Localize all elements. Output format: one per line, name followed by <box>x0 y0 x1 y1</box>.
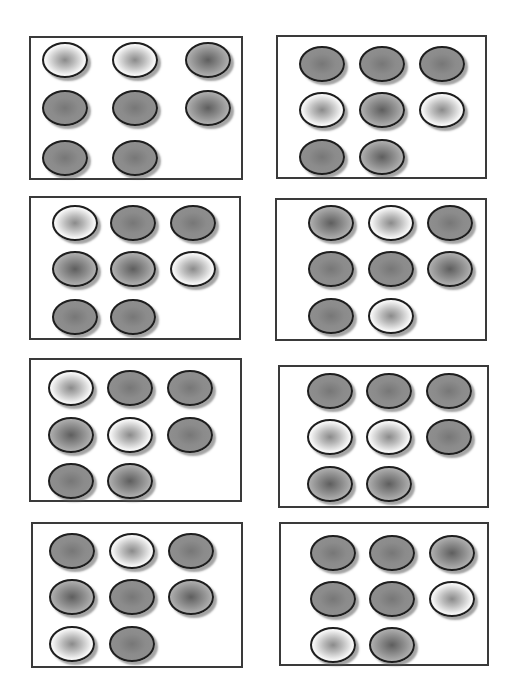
light-dot-icon <box>42 42 88 78</box>
dark-dot-icon <box>299 139 345 175</box>
dark-dot-icon <box>52 299 98 335</box>
dot-panel-1 <box>29 36 243 180</box>
medium-dot-icon <box>366 466 412 502</box>
dark-dot-icon <box>42 140 88 176</box>
medium-dot-icon <box>185 42 231 78</box>
dark-dot-icon <box>308 251 354 287</box>
dark-dot-icon <box>167 370 213 406</box>
dot-panel-8 <box>279 522 489 666</box>
light-dot-icon <box>109 533 155 569</box>
dot-panel-5 <box>29 358 242 502</box>
light-dot-icon <box>48 370 94 406</box>
dark-dot-icon <box>49 533 95 569</box>
dark-dot-icon <box>310 535 356 571</box>
light-dot-icon <box>52 205 98 241</box>
dot-panel-3 <box>29 196 241 340</box>
dark-dot-icon <box>308 298 354 334</box>
medium-dot-icon <box>308 205 354 241</box>
dark-dot-icon <box>307 373 353 409</box>
dark-dot-icon <box>369 535 415 571</box>
light-dot-icon <box>112 42 158 78</box>
light-dot-icon <box>368 298 414 334</box>
dark-dot-icon <box>366 373 412 409</box>
dark-dot-icon <box>168 533 214 569</box>
medium-dot-icon <box>49 579 95 615</box>
light-dot-icon <box>49 626 95 662</box>
medium-dot-icon <box>168 579 214 615</box>
light-dot-icon <box>429 581 475 617</box>
dark-dot-icon <box>48 463 94 499</box>
dark-dot-icon <box>107 370 153 406</box>
dark-dot-icon <box>419 46 465 82</box>
dot-panel-4 <box>275 198 487 341</box>
light-dot-icon <box>170 251 216 287</box>
dark-dot-icon <box>310 581 356 617</box>
dark-dot-icon <box>368 251 414 287</box>
medium-dot-icon <box>107 463 153 499</box>
dot-panel-2 <box>276 35 487 179</box>
medium-dot-icon <box>110 251 156 287</box>
light-dot-icon <box>307 419 353 455</box>
medium-dot-icon <box>52 251 98 287</box>
light-dot-icon <box>107 417 153 453</box>
medium-dot-icon <box>427 251 473 287</box>
dark-dot-icon <box>427 205 473 241</box>
dark-dot-icon <box>170 205 216 241</box>
dot-panel-7 <box>31 522 243 668</box>
light-dot-icon <box>366 419 412 455</box>
dark-dot-icon <box>112 90 158 126</box>
medium-dot-icon <box>359 92 405 128</box>
dark-dot-icon <box>109 579 155 615</box>
dark-dot-icon <box>369 581 415 617</box>
medium-dot-icon <box>359 139 405 175</box>
dark-dot-icon <box>359 46 405 82</box>
dark-dot-icon <box>167 417 213 453</box>
light-dot-icon <box>299 92 345 128</box>
dark-dot-icon <box>112 140 158 176</box>
medium-dot-icon <box>48 417 94 453</box>
medium-dot-icon <box>369 627 415 663</box>
dark-dot-icon <box>299 46 345 82</box>
dark-dot-icon <box>426 373 472 409</box>
dark-dot-icon <box>110 205 156 241</box>
medium-dot-icon <box>429 535 475 571</box>
light-dot-icon <box>419 92 465 128</box>
light-dot-icon <box>310 627 356 663</box>
dark-dot-icon <box>426 419 472 455</box>
dark-dot-icon <box>110 299 156 335</box>
medium-dot-icon <box>185 90 231 126</box>
dot-panel-6 <box>278 365 489 508</box>
light-dot-icon <box>368 205 414 241</box>
medium-dot-icon <box>307 466 353 502</box>
dark-dot-icon <box>42 90 88 126</box>
dark-dot-icon <box>109 626 155 662</box>
